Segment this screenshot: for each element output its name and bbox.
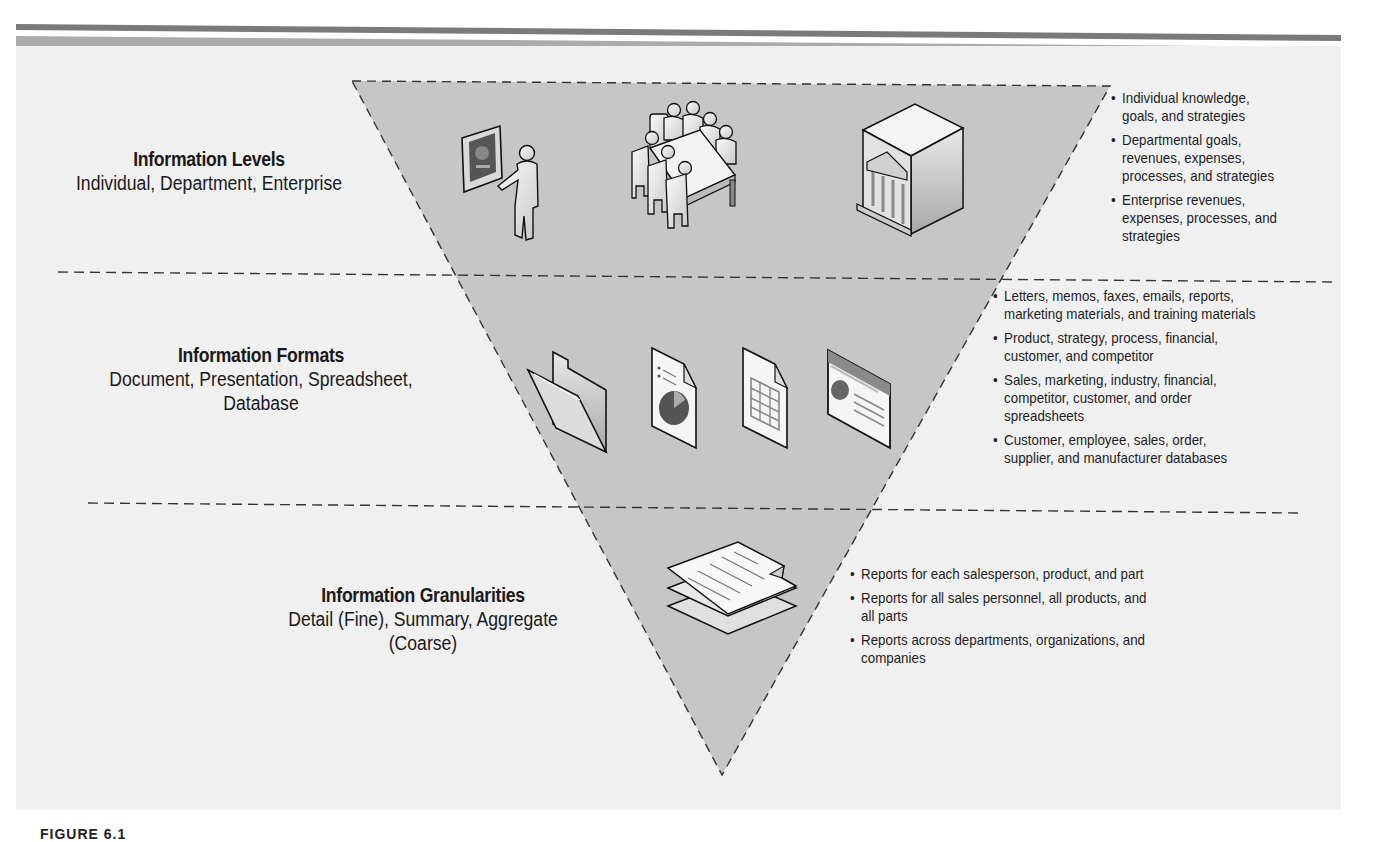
granularities-label: Information Granularities Detail (Fine),… xyxy=(240,583,606,655)
granularities-bullet-list: Reports for each salesperson, product, a… xyxy=(850,565,1250,673)
levels-label: Information Levels Individual, Departmen… xyxy=(0,147,418,195)
levels-subtitle: Individual, Department, Enterprise xyxy=(25,171,393,195)
levels-bullet: Departmental goals, revenues, expenses, … xyxy=(1111,131,1332,185)
formats-subtitle-line-2: Database xyxy=(31,391,490,415)
figure-label: FIGURE 6.1 xyxy=(40,826,126,842)
formats-bullet-list: Letters, memos, faxes, emails, reports, … xyxy=(993,287,1353,473)
granularities-bullet: Reports across departments, organization… xyxy=(850,631,1218,667)
granularities-bullet: Reports for each salesperson, product, a… xyxy=(850,565,1218,583)
formats-title: Information Formats xyxy=(31,343,490,367)
formats-bullet: Customer, employee, sales, order, suppli… xyxy=(993,431,1324,467)
granularities-bullet: Reports for all sales personnel, all pro… xyxy=(850,589,1218,625)
formats-label: Information Formats Document, Presentati… xyxy=(0,343,522,415)
levels-title: Information Levels xyxy=(25,147,393,171)
formats-bullet: Sales, marketing, industry, financial, c… xyxy=(993,371,1324,425)
formats-bullet: Product, strategy, process, financial, c… xyxy=(993,329,1324,365)
formats-bullet: Letters, memos, faxes, emails, reports, … xyxy=(993,287,1324,323)
levels-bullet-list: Individual knowledge, goals, and strateg… xyxy=(1111,89,1351,251)
levels-bullet: Individual knowledge, goals, and strateg… xyxy=(1111,89,1332,125)
granularities-subtitle-line-1: Detail (Fine), Summary, Aggregate xyxy=(262,607,584,631)
formats-subtitle-line-1: Document, Presentation, Spreadsheet, xyxy=(31,367,490,391)
levels-bullet: Enterprise revenues, expenses, processes… xyxy=(1111,191,1332,245)
granularities-title: Information Granularities xyxy=(262,583,584,607)
granularities-subtitle-line-2: (Coarse) xyxy=(262,631,584,655)
